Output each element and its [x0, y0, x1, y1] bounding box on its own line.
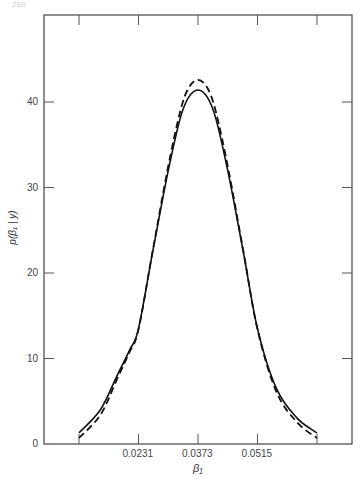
- x-tick-label: 0.0231: [123, 448, 154, 459]
- y-tick-label: 40: [27, 96, 38, 107]
- solid-density-curve: [79, 90, 317, 433]
- y-tick-label: 30: [27, 182, 38, 193]
- x-tick-label: 0.0515: [242, 448, 273, 459]
- x-axis-label: β₁: [193, 462, 203, 474]
- y-tick-label: 10: [27, 353, 38, 364]
- y-tick-label: 20: [27, 267, 38, 278]
- dashed-density-curve: [79, 80, 317, 438]
- chart-plot-area: [0, 0, 364, 479]
- x-tick-label: 0.0373: [182, 448, 213, 459]
- y-axis-label: p(β₁ | y): [7, 198, 18, 258]
- y-tick-label: 0: [32, 438, 38, 449]
